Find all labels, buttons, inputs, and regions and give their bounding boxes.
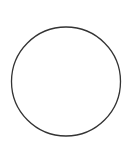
circle-outline: [12, 27, 121, 136]
diagram-svg: [0, 0, 127, 150]
diagram-canvas: [0, 0, 127, 150]
